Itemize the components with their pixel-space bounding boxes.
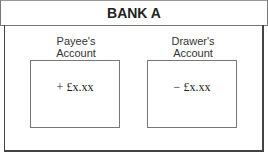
drawer-amount: − £x.xx bbox=[174, 80, 211, 95]
drawer-label-line2: Account bbox=[147, 47, 239, 59]
bank-title: BANK A bbox=[0, 0, 268, 26]
payee-account-label: Payee's Account bbox=[30, 35, 122, 59]
drawer-account-box: − £x.xx bbox=[147, 60, 237, 128]
drawer-label-line1: Drawer's bbox=[147, 35, 239, 47]
payee-amount: + £x.xx bbox=[57, 80, 94, 95]
drawer-account-label: Drawer's Account bbox=[147, 35, 239, 59]
payee-label-line2: Account bbox=[30, 47, 122, 59]
payee-label-line1: Payee's bbox=[30, 35, 122, 47]
payee-account-box: + £x.xx bbox=[30, 60, 120, 128]
